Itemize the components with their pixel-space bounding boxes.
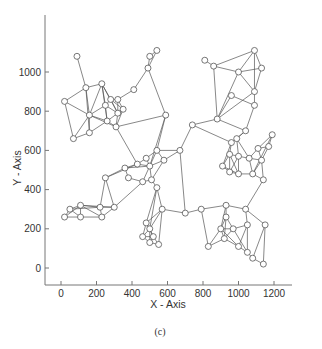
figure-caption: (c): [154, 326, 165, 338]
graph-edge: [239, 225, 248, 247]
graph-node: [154, 47, 160, 53]
graph-node: [228, 140, 234, 146]
graph-node: [62, 98, 68, 104]
graph-node: [189, 122, 195, 128]
graph-edge: [116, 115, 166, 127]
graph-node: [205, 243, 211, 249]
graph-node: [67, 206, 73, 212]
graph-node: [251, 102, 257, 108]
graph-node: [147, 226, 153, 232]
graph-node: [228, 93, 234, 99]
graph-node: [246, 155, 252, 161]
graph-edge: [231, 96, 254, 106]
x-axis-title: X - Axis: [150, 298, 186, 310]
graph-edge: [100, 178, 105, 207]
graph-node: [131, 87, 137, 93]
graph-node: [255, 145, 261, 151]
graph-node: [244, 222, 250, 228]
graph-node: [243, 206, 249, 212]
graph-node: [115, 96, 121, 102]
graph-edge: [77, 56, 86, 87]
y-axis-ticks: 02004006008001000: [19, 67, 49, 274]
graph-edge: [105, 178, 114, 207]
x-tick-label: 400: [124, 288, 141, 299]
y-tick-label: 200: [24, 223, 41, 234]
graph-edge: [116, 127, 137, 164]
graph-node: [218, 226, 224, 232]
graph-edge: [114, 182, 142, 207]
x-tick-label: 1000: [227, 288, 250, 299]
graph-node: [147, 53, 153, 59]
graph-edge: [65, 101, 74, 138]
graph-node: [78, 202, 84, 208]
graph-node: [266, 143, 272, 149]
graph-edge: [217, 72, 238, 119]
graph-node: [149, 177, 155, 183]
graph-node: [198, 206, 204, 212]
graph-node: [177, 147, 183, 153]
graph-node: [134, 161, 140, 167]
graph-edge: [89, 115, 116, 127]
graph-node: [262, 222, 268, 228]
graph-edge: [162, 209, 185, 213]
graph-node: [211, 63, 217, 69]
graph-node: [156, 241, 162, 247]
y-tick-label: 1000: [19, 67, 42, 78]
graph-edge: [217, 96, 231, 120]
graph-node: [150, 234, 156, 240]
graph-node: [223, 202, 229, 208]
graph-node: [83, 85, 89, 91]
graph-node: [154, 185, 160, 191]
graph-node: [236, 153, 242, 159]
graph-edge: [89, 84, 101, 115]
graph-node: [74, 53, 80, 59]
x-tick-label: 800: [195, 288, 212, 299]
graph-node: [99, 81, 105, 87]
graph-node: [62, 214, 68, 220]
x-tick-label: 0: [58, 288, 64, 299]
graph-node: [269, 132, 275, 138]
graph-node: [234, 136, 240, 142]
graph-node: [115, 110, 121, 116]
graph-edge: [217, 92, 254, 119]
graph-edge: [192, 119, 217, 125]
graph-node: [99, 214, 105, 220]
graph-node: [147, 240, 153, 246]
graph-edge: [246, 105, 255, 130]
graph-node: [243, 128, 249, 134]
graph-node: [143, 155, 149, 161]
graph-node: [154, 147, 160, 153]
y-axis-title: Y - Axis: [11, 150, 23, 185]
graph-node: [159, 206, 165, 212]
graph-edge: [254, 68, 261, 92]
graph-node: [259, 157, 265, 163]
y-tick-label: 800: [24, 106, 41, 117]
graph-node: [161, 157, 167, 163]
graph-node: [220, 163, 226, 169]
graph-edge: [148, 68, 166, 115]
graph-edge: [157, 115, 166, 150]
graph-node: [236, 69, 242, 75]
graph-node: [86, 112, 92, 118]
graph-node: [250, 255, 256, 261]
graph-edge: [192, 125, 231, 143]
graph-node: [108, 96, 114, 102]
graph-edge: [253, 225, 265, 258]
graph-node: [236, 171, 242, 177]
graph-node: [250, 171, 256, 177]
y-tick-label: 0: [35, 263, 41, 274]
graph-node: [111, 204, 117, 210]
graph-edge: [65, 101, 90, 115]
graph-node: [113, 124, 119, 130]
x-tick-label: 200: [88, 288, 105, 299]
graph-node: [147, 163, 153, 169]
graph-node: [143, 220, 149, 226]
graph-node: [259, 65, 265, 71]
graph-node: [230, 226, 236, 232]
graph-node: [182, 210, 188, 216]
graph-node: [102, 175, 108, 181]
graph-node: [86, 130, 92, 136]
graph-node: [251, 47, 257, 53]
graph-edge: [105, 164, 137, 178]
graph-edge: [201, 205, 226, 209]
